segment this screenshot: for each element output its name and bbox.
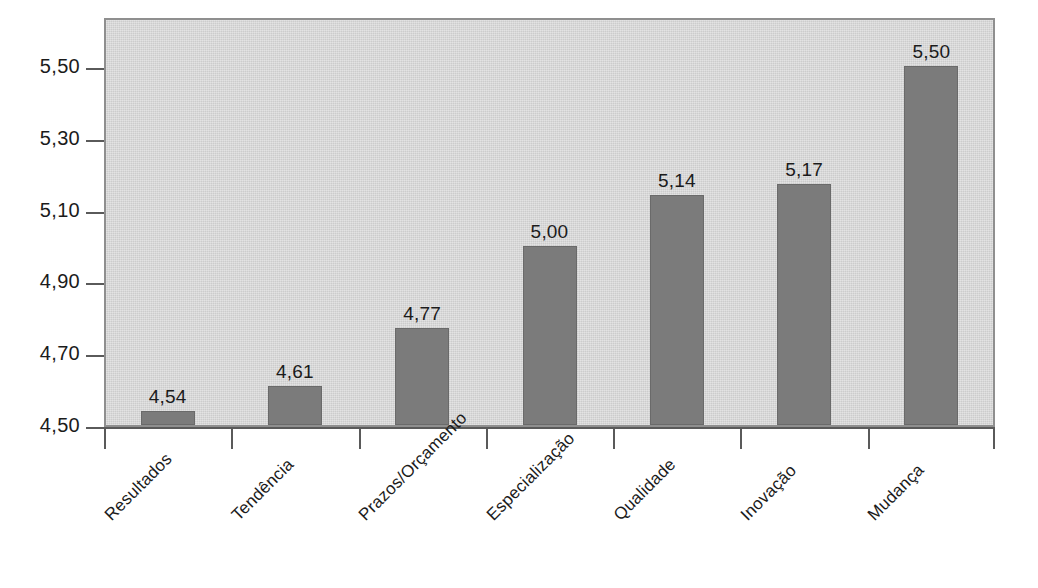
bar: [395, 328, 449, 425]
y-axis-label: 4,90: [10, 270, 80, 293]
bar-value-label: 5,50: [881, 41, 981, 63]
x-axis-tick: [231, 427, 233, 449]
y-axis-tick: [86, 140, 104, 142]
bar-value-label: 4,61: [245, 361, 345, 383]
y-axis-label: 4,70: [10, 342, 80, 365]
bar-value-label: 4,54: [118, 386, 218, 408]
x-axis-tick: [868, 427, 870, 449]
bar-chart: 4,544,614,775,005,145,175,50 4,504,704,9…: [0, 0, 1038, 588]
x-axis-category-label: Inovação: [737, 461, 801, 525]
bar-value-label: 4,77: [372, 303, 472, 325]
bar-value-label: 5,17: [754, 159, 854, 181]
y-axis-label: 4,50: [10, 414, 80, 437]
x-axis-tick: [486, 427, 488, 449]
x-axis-category-label: Qualidade: [610, 455, 680, 525]
x-axis-tick: [359, 427, 361, 449]
y-axis-tick: [86, 68, 104, 70]
y-axis-tick: [86, 283, 104, 285]
y-axis-tick: [86, 212, 104, 214]
x-axis-tick: [993, 427, 995, 449]
y-axis-label: 5,50: [10, 55, 80, 78]
bar-value-label: 5,14: [627, 170, 727, 192]
bar: [141, 411, 195, 425]
x-axis-tick: [613, 427, 615, 449]
x-axis-tick: [104, 427, 106, 449]
bar: [777, 184, 831, 425]
x-axis-category-label: Tendência: [228, 455, 298, 525]
y-axis-label: 5,10: [10, 199, 80, 222]
y-axis-tick: [86, 355, 104, 357]
bar-value-label: 5,00: [500, 221, 600, 243]
bar: [523, 246, 577, 426]
x-axis-tick: [740, 427, 742, 449]
bar: [268, 386, 322, 425]
bar: [650, 195, 704, 425]
x-axis-category-label: Especialização: [482, 429, 578, 525]
x-axis-category-label: Resultados: [100, 449, 176, 525]
x-axis-line: [104, 427, 995, 429]
y-axis-tick: [86, 427, 104, 429]
y-axis-label: 5,30: [10, 127, 80, 150]
x-axis-category-label: Mudança: [864, 460, 929, 525]
bar: [904, 66, 958, 425]
